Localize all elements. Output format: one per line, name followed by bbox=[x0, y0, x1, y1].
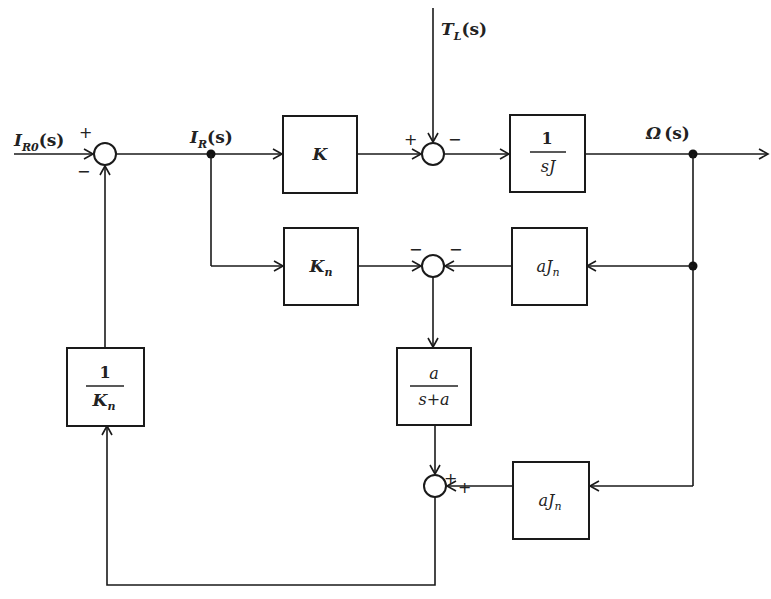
block-label-k: K bbox=[312, 144, 329, 164]
block-diagram: IR0(s) IR(s) TL(s) Ω(s) + − + − − − + + … bbox=[0, 0, 771, 599]
block-inverse-gain bbox=[67, 348, 144, 426]
summing-junction-estimate bbox=[422, 255, 444, 277]
block-label-plant-num: 1 bbox=[541, 129, 552, 148]
block-plant bbox=[510, 115, 585, 192]
disturbance-estimate-line bbox=[107, 426, 435, 585]
sign-torque-minus: − bbox=[448, 130, 461, 149]
sign-estimate-minus-left: − bbox=[409, 240, 422, 259]
block-label-plant-den: sJ bbox=[541, 157, 557, 176]
sign-estimate-minus-right: − bbox=[449, 240, 462, 259]
summing-junction-torque bbox=[422, 143, 444, 165]
sign-torque-plus: + bbox=[404, 130, 417, 149]
signal-label-current: IR(s) bbox=[189, 127, 233, 151]
block-label-filter-num: a bbox=[429, 364, 439, 383]
sign-input-plus: + bbox=[79, 123, 92, 142]
signal-label-disturbance: TL(s) bbox=[441, 19, 487, 43]
signal-label-input: IR0(s) bbox=[13, 130, 64, 154]
sign-output-plus-top: + bbox=[444, 469, 457, 488]
summing-junction-input bbox=[94, 143, 116, 165]
summing-junction-output bbox=[424, 475, 446, 497]
block-label-filter-den: s+a bbox=[418, 390, 449, 409]
sign-input-minus: − bbox=[77, 162, 90, 181]
signal-label-output: Ω(s) bbox=[645, 123, 690, 143]
block-label-inverse-gain-num: 1 bbox=[99, 363, 110, 382]
sign-output-plus-right: + bbox=[458, 478, 471, 497]
